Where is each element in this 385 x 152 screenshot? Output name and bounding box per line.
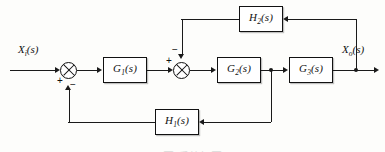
wire-h1-to-outer-summer-h	[68, 122, 155, 123]
block-h1-label: H1(s)	[165, 114, 189, 129]
block-h2[interactable]: H2(s)	[239, 6, 283, 32]
block-h2-label: H2(s)	[249, 11, 273, 26]
wire-outer-summer-to-g1	[77, 70, 99, 71]
block-g3[interactable]: G3(s)	[289, 57, 333, 83]
input-signal-label: Xi(s)	[18, 43, 38, 58]
block-g2-label: G2(s)	[227, 62, 251, 77]
block-diagram-figure: Xi(s) + − G1(s) + − G2(s) G3(s)	[0, 0, 385, 152]
block-g1-label: G1(s)	[113, 62, 137, 77]
arrowhead-g3-input	[283, 67, 288, 73]
block-g1[interactable]: G1(s)	[103, 57, 147, 83]
arrowhead-g2-input	[211, 67, 216, 73]
wire-g2-to-g3	[261, 70, 285, 71]
inner-summer	[173, 62, 190, 79]
wire-h1-return-bottom	[201, 122, 271, 123]
arrowhead-outer-summer-feedback	[65, 85, 71, 90]
arrowhead-g1-input	[97, 67, 102, 73]
wire-h2-to-inner-summer-v	[182, 19, 183, 55]
wire-output-node-up-to-h2	[356, 19, 357, 70]
arrowhead-h2-input	[283, 16, 288, 22]
outer-summer-plus-sign: +	[57, 76, 63, 86]
arrowhead-inner-summer-feedback	[178, 54, 184, 59]
wire-inner-summer-to-g2	[190, 70, 213, 71]
block-g2[interactable]: G2(s)	[217, 57, 261, 83]
arrowhead-h1-input	[199, 119, 204, 125]
wire-g1-to-inner-summer	[147, 70, 170, 71]
arrowhead-output	[374, 67, 379, 73]
wire-input-to-outer-summer	[10, 70, 57, 71]
wire-h2-return-top	[285, 19, 356, 20]
figure-caption: 图 系统框图	[0, 148, 385, 152]
output-signal-label: Xo(s)	[342, 43, 364, 58]
inner-summer-minus-sign: −	[172, 45, 178, 55]
inner-summer-plus-sign: +	[166, 56, 172, 66]
wire-takeoff-down-to-h1	[271, 70, 272, 122]
wire-h2-to-inner-summer-h	[181, 19, 239, 20]
block-g3-label: G3(s)	[299, 62, 323, 77]
wire-h1-to-outer-summer-v	[69, 90, 70, 122]
block-h1[interactable]: H1(s)	[155, 109, 199, 135]
